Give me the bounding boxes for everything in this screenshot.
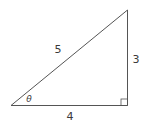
triangle-diagram: 5 3 4 θ: [0, 0, 145, 124]
hypotenuse-label: 5: [55, 43, 62, 56]
right-angle-marker: [121, 99, 128, 106]
triangle: [11, 10, 128, 106]
angle-label: θ: [26, 94, 32, 104]
horizontal-side-label: 4: [67, 110, 74, 123]
vertical-side-label: 3: [133, 53, 140, 66]
